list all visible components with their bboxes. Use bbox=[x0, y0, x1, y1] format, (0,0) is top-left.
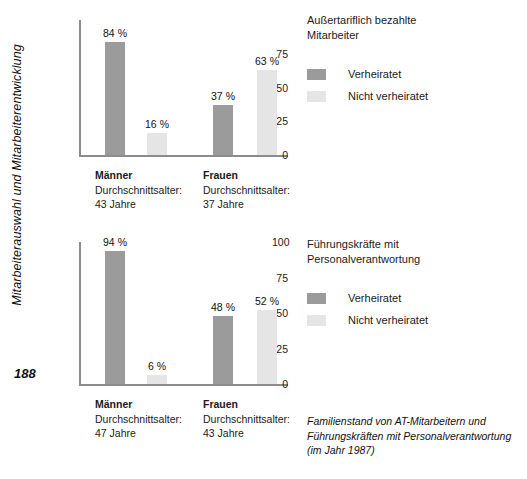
side-title-top-line2: Mitarbeiter bbox=[307, 28, 428, 43]
legend-label-top-nicht-verheiratet: Nicht verheiratet bbox=[348, 90, 428, 102]
legend-label-top-verheiratet: Verheiratet bbox=[348, 68, 401, 80]
figure-caption-line1: Familienstand von AT-Mitarbeitern und bbox=[307, 414, 522, 429]
legend-label-bottom-verheiratet: Verheiratet bbox=[348, 292, 401, 304]
bar-value-top-maenner-verheiratet: 84 % bbox=[93, 27, 137, 39]
legend-swatch-verheiratet-icon bbox=[307, 69, 326, 80]
side-title-top-line1: Außertariflich bezahlte bbox=[307, 13, 428, 28]
side-title-bottom-line2: Personalverantwortung bbox=[307, 252, 428, 267]
group-agelabel-bottom-maenner: Durchschnittsalter: bbox=[95, 412, 182, 427]
legend-row-top-verheiratet: Verheiratet bbox=[307, 65, 428, 83]
group-name-bottom-maenner: Männer bbox=[95, 397, 182, 412]
y-tick-bottom-0: 100 bbox=[272, 236, 288, 248]
group-name-top-frauen: Frauen bbox=[203, 168, 290, 183]
bar-bottom-maenner-verheiratet bbox=[105, 251, 125, 384]
y-axis-line-bottom bbox=[79, 242, 81, 384]
bar-value-bottom-frauen-verheiratet: 48 % bbox=[201, 301, 245, 313]
group-agelabel-top-maenner: Durchschnittsalter: bbox=[95, 183, 182, 198]
bar-top-maenner-verheiratet bbox=[105, 42, 125, 155]
group-agevalue-bottom-frauen: 43 Jahre bbox=[203, 426, 290, 441]
legend-bottom: Verheiratet Nicht verheiratet bbox=[307, 289, 428, 329]
side-panel-bottom: Führungskräfte mit Personalverantwortung… bbox=[307, 237, 428, 333]
x-axis-line-bottom bbox=[79, 384, 288, 386]
legend-row-bottom-nicht-verheiratet: Nicht verheiratet bbox=[307, 311, 428, 329]
legend-label-bottom-nicht-verheiratet: Nicht verheiratet bbox=[348, 314, 428, 326]
bar-top-frauen-verheiratet bbox=[213, 105, 233, 155]
figure-caption-line2: Führungskräften mit Personalverantwortun… bbox=[307, 429, 522, 444]
x-axis-line-top bbox=[79, 155, 288, 157]
bar-value-top-frauen-verheiratet: 37 % bbox=[201, 90, 245, 102]
side-title-top: Außertariflich bezahlte Mitarbeiter bbox=[307, 13, 428, 43]
side-title-bottom-line1: Führungskräfte mit bbox=[307, 237, 428, 252]
bar-value-top-maenner-nicht-verheiratet: 16 % bbox=[135, 118, 179, 130]
bar-bottom-frauen-verheiratet bbox=[213, 316, 233, 384]
group-caption-top-maenner: Männer Durchschnittsalter: 43 Jahre bbox=[95, 168, 182, 212]
legend-swatch-nicht-verheiratet-icon bbox=[307, 315, 326, 326]
group-agevalue-top-frauen: 37 Jahre bbox=[203, 197, 290, 212]
bar-value-bottom-frauen-nicht-verheiratet: 52 % bbox=[245, 295, 289, 307]
figure-caption: Familienstand von AT-Mitarbeitern und Fü… bbox=[307, 414, 522, 458]
legend-swatch-nicht-verheiratet-icon bbox=[307, 91, 326, 102]
chart-outertariflich: 75 50 25 0 84 % 16 % 37 % 63 % Männer Du… bbox=[58, 8, 288, 223]
group-name-top-maenner: Männer bbox=[95, 168, 182, 183]
figure-caption-line3: (im Jahr 1987) bbox=[307, 443, 522, 458]
vertical-axis-title: Mitarbeiterauswahl und Mitarbeiterentwic… bbox=[0, 0, 34, 350]
group-agevalue-top-maenner: 43 Jahre bbox=[95, 197, 182, 212]
group-agelabel-top-frauen: Durchschnittsalter: bbox=[203, 183, 290, 198]
y-axis-line-top bbox=[79, 20, 81, 155]
group-caption-top-frauen: Frauen Durchschnittsalter: 37 Jahre bbox=[203, 168, 290, 212]
bar-top-maenner-nicht-verheiratet bbox=[147, 133, 167, 155]
bar-top-frauen-nicht-verheiratet bbox=[257, 70, 277, 155]
group-name-bottom-frauen: Frauen bbox=[203, 397, 290, 412]
group-agelabel-bottom-frauen: Durchschnittsalter: bbox=[203, 412, 290, 427]
legend-swatch-verheiratet-icon bbox=[307, 293, 326, 304]
chart-fuehrungskraefte: 100 75 50 25 0 94 % 6 % 48 % 52 % Männer… bbox=[58, 232, 288, 447]
side-panel-top: Außertariflich bezahlte Mitarbeiter Verh… bbox=[307, 13, 428, 109]
legend-top: Verheiratet Nicht verheiratet bbox=[307, 65, 428, 105]
bar-value-bottom-maenner-verheiratet: 94 % bbox=[93, 236, 137, 248]
side-title-bottom: Führungskräfte mit Personalverantwortung bbox=[307, 237, 428, 267]
group-agevalue-bottom-maenner: 47 Jahre bbox=[95, 426, 182, 441]
bar-bottom-maenner-nicht-verheiratet bbox=[147, 375, 167, 384]
legend-row-bottom-verheiratet: Verheiratet bbox=[307, 289, 428, 307]
page-number: 188 bbox=[14, 366, 36, 381]
group-caption-bottom-frauen: Frauen Durchschnittsalter: 43 Jahre bbox=[203, 397, 290, 441]
group-caption-bottom-maenner: Männer Durchschnittsalter: 47 Jahre bbox=[95, 397, 182, 441]
bar-value-bottom-maenner-nicht-verheiratet: 6 % bbox=[135, 360, 179, 372]
legend-row-top-nicht-verheiratet: Nicht verheiratet bbox=[307, 87, 428, 105]
bar-value-top-frauen-nicht-verheiratet: 63 % bbox=[245, 55, 289, 67]
plot-area-top: 75 50 25 0 84 % 16 % 37 % 63 % bbox=[58, 8, 288, 158]
bar-bottom-frauen-nicht-verheiratet bbox=[257, 310, 277, 384]
y-tick-bottom-1: 75 bbox=[272, 272, 288, 284]
vertical-axis-title-text: Mitarbeiterauswahl und Mitarbeiterentwic… bbox=[10, 44, 24, 306]
plot-area-bottom: 100 75 50 25 0 94 % 6 % 48 % 52 % bbox=[58, 232, 288, 387]
